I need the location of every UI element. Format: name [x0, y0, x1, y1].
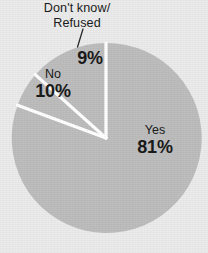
slice-label-dont-know-line1: Don't know/	[14, 1, 140, 16]
slice-value-dont-know: 9%	[62, 49, 118, 68]
slice-value-dont-know-text: 9%	[62, 49, 118, 68]
slice-label-dont-know: Don't know/ Refused	[14, 1, 140, 30]
slice-value-no: 10%	[18, 82, 88, 101]
slice-value-yes: 81%	[119, 138, 191, 157]
slice-label-yes-name: Yes	[119, 124, 191, 138]
slice-label-dont-know-line2: Refused	[14, 16, 140, 31]
callout-leader-line	[78, 29, 84, 47]
slice-label-no: No 10%	[18, 68, 88, 101]
slice-label-no-name: No	[18, 68, 88, 82]
pie-chart: Don't know/ Refused 9% No 10% Yes 81%	[0, 0, 208, 253]
slice-label-yes: Yes 81%	[119, 124, 191, 157]
